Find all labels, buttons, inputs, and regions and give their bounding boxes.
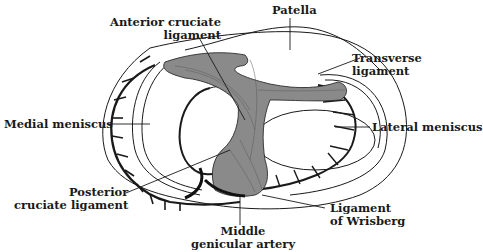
label-patella: Patella (272, 4, 317, 17)
label-anterior-cruciate-ligament: Anterior cruciate ligament (110, 16, 221, 42)
medial-meniscus-rim (132, 62, 200, 195)
label-lateral-meniscus: Lateral meniscus (372, 121, 483, 134)
label-transverse-ligament: Transverse ligament (352, 52, 422, 78)
label-wrisberg-line2: of Wrisberg (330, 215, 405, 228)
label-transverse-line2: ligament (352, 65, 422, 78)
label-posterior-cruciate-ligament: Posterior cruciate ligament (14, 186, 128, 212)
label-middle-genicular-artery: Middle genicular artery (188, 225, 298, 251)
label-ligament-of-wrisberg: Ligament of Wrisberg (330, 202, 405, 228)
lateral-condyle-cavity (255, 110, 375, 170)
label-artery-line2: genicular artery (188, 238, 298, 251)
label-pcl-line2: cruciate ligament (14, 199, 128, 212)
label-acl-line2: ligament (110, 29, 221, 42)
label-medial-meniscus: Medial meniscus (4, 118, 113, 131)
medial-meniscus-rim-inner (142, 64, 202, 190)
